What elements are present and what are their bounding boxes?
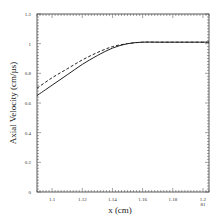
y-tick-label: 0 bbox=[29, 190, 32, 195]
y-axis-title: Axial Velocity (cm/µs) bbox=[8, 62, 18, 145]
y-tick-label: 0.6 bbox=[25, 101, 32, 106]
x-tick-labels: 1.11.121.141.161.181.2 bbox=[49, 197, 207, 202]
corner-annotation: 81 bbox=[201, 202, 207, 207]
axis-ticks bbox=[37, 14, 209, 192]
series-lines bbox=[37, 42, 209, 96]
series-dashed-line bbox=[37, 42, 209, 88]
y-tick-label: 1.2 bbox=[25, 12, 32, 17]
y-tick-labels: 00.20.40.60.811.2 bbox=[25, 12, 32, 195]
y-tick-label: 1 bbox=[29, 42, 32, 47]
x-tick-label: 1.14 bbox=[108, 197, 117, 202]
y-tick-label: 0.4 bbox=[25, 131, 32, 136]
chart: 00.20.40.60.811.2 1.11.121.141.161.181.2… bbox=[0, 0, 221, 222]
y-tick-label: 0.8 bbox=[25, 71, 32, 76]
y-tick-label: 0.2 bbox=[25, 160, 32, 165]
x-axis-title: x (cm) bbox=[108, 205, 132, 215]
plot-frame bbox=[37, 14, 209, 192]
x-tick-label: 1.1 bbox=[49, 197, 56, 202]
x-tick-label: 1.18 bbox=[168, 197, 177, 202]
series-solid-line bbox=[37, 42, 209, 96]
x-tick-label: 1.16 bbox=[138, 197, 147, 202]
x-tick-label: 1.12 bbox=[78, 197, 87, 202]
